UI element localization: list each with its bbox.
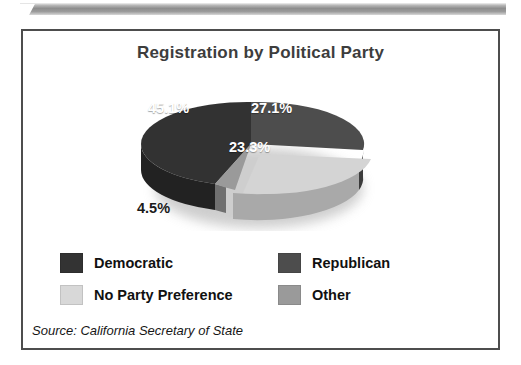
legend-label-republican: Republican [312,255,390,271]
legend-item-republican: Republican [278,253,468,273]
legend-swatch-democratic [60,253,83,273]
pie-value-label-republican: 27.1% [251,100,292,116]
legend-item-other: Other [278,285,468,305]
page-scan-edge-bar [20,3,506,15]
pie-value-label-democratic: 45.1% [148,100,189,116]
pie-value-label-no-party-preference: 23.3% [229,139,270,155]
chart-figure-frame: Registration by Political Party [21,29,500,350]
pie-value-label-other: 4.5% [137,200,170,216]
chart-title: Registration by Political Party [23,43,498,63]
legend-label-democratic: Democratic [94,255,173,271]
legend-item-no-party-preference: No Party Preference [60,285,278,305]
pie-depth-other [215,184,226,213]
legend-swatch-no-party-preference [60,285,83,305]
legend-swatch-republican [278,253,301,273]
legend-item-democratic: Democratic [60,253,278,273]
legend-swatch-other [278,285,301,305]
source-note: Source: California Secretary of State [32,323,243,338]
legend-row: No Party Preference Other [60,279,470,311]
legend-label-no-party-preference: No Party Preference [94,287,233,303]
pie-chart: 45.1% 27.1% 23.3% 4.5% [123,76,383,231]
chart-legend: Democratic Republican No Party Preferenc… [60,247,470,311]
legend-row: Democratic Republican [60,247,470,279]
legend-label-other: Other [312,287,351,303]
